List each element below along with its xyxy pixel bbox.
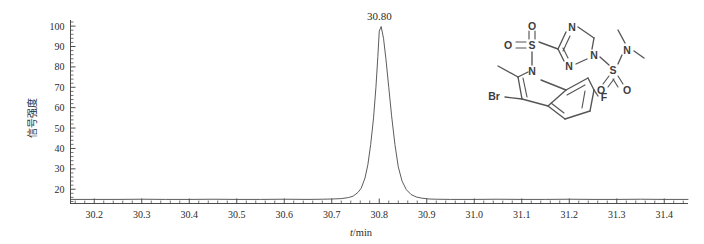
bond-c2-n1 <box>518 72 528 77</box>
bond-c7-c6 <box>588 78 594 90</box>
x-tick-label: 30.7 <box>323 209 341 220</box>
bond-s-triazole-c <box>539 42 558 49</box>
y-tick-label: 70 <box>55 82 65 93</box>
y-tick-label: 40 <box>55 143 65 154</box>
peak-label-3080: 30.80 <box>367 10 392 22</box>
triazole-ring <box>558 27 594 64</box>
bond-c3a-c3 <box>522 99 548 106</box>
bond-c6-c5 <box>590 90 594 111</box>
bond-c2-methyl <box>498 66 518 77</box>
bond-s2-n <box>618 55 622 64</box>
bond-s2-o-right-a <box>618 76 623 84</box>
bond-s2-o-left-a <box>603 76 609 84</box>
atom-label-br: Br <box>488 90 500 102</box>
x-tick-label: 30.9 <box>418 209 436 220</box>
bond-c5-n1 <box>592 38 594 49</box>
y-tick-label: 20 <box>55 184 65 195</box>
y-tick-label: 90 <box>55 41 65 52</box>
atom-label-n: N <box>568 21 576 33</box>
x-tick-label: 31.4 <box>656 209 674 220</box>
atom-label-s: S <box>528 39 535 51</box>
indole-bicycle <box>498 66 598 119</box>
x-tick-label: 30.6 <box>276 209 294 220</box>
bond-n-methyl-right <box>634 51 644 58</box>
chromatogram-figure: 2030405060708090100 30.230.330.430.530.6… <box>0 0 704 244</box>
x-tick-label: 31.2 <box>561 209 579 220</box>
x-axis-title: t/min <box>350 227 373 238</box>
dimethylsulfamoyl-group <box>600 30 644 87</box>
x-axis-tick-labels: 30.230.330.430.530.630.730.830.931.031.1… <box>86 209 674 220</box>
x-axis-title-unit: /min <box>353 227 373 238</box>
atom-label-o: O <box>623 84 631 96</box>
y-tick-label: 80 <box>55 61 65 72</box>
x-tick-label: 31.3 <box>608 209 626 220</box>
y-tick-label: 60 <box>55 102 65 113</box>
atom-label-f: F <box>601 91 608 103</box>
y-axis-ticks <box>71 22 76 201</box>
atom-label-s: S <box>609 64 616 76</box>
bond-c7a-c7-inner <box>567 85 585 95</box>
bond-c3-c2 <box>518 77 522 99</box>
x-tick-label: 30.8 <box>371 209 389 220</box>
y-axis-title: 信号强度 <box>26 98 38 138</box>
structure-atom-labels: BrNSOONNNSOONF <box>488 20 631 103</box>
bond-c3a-c7a <box>548 90 566 106</box>
x-tick-label: 30.5 <box>228 209 246 220</box>
bond-c3-c2-inner <box>523 78 527 97</box>
sulfonyl-linker <box>516 31 558 65</box>
bond-s2-o-right-b <box>613 79 618 87</box>
bond-n2-c3-inner <box>563 48 568 58</box>
bond-c6-c5-inner <box>582 91 585 108</box>
bond-n1-n2 <box>576 59 587 64</box>
bond-c4-c3a-inner <box>551 103 564 113</box>
y-tick-label: 30 <box>55 163 65 174</box>
atom-label-n: N <box>528 65 536 77</box>
bond-n4-c5 <box>578 27 594 38</box>
bond-n-methyl-up <box>618 30 625 43</box>
atom-label-n: N <box>590 49 598 61</box>
x-tick-label: 30.2 <box>86 209 104 220</box>
y-tick-label: 50 <box>55 123 65 134</box>
y-axis-tick-labels: 2030405060708090100 <box>50 21 65 195</box>
x-tick-label: 31.0 <box>466 209 484 220</box>
bond-n1-s2 <box>600 57 609 65</box>
bond-n1-c7a <box>541 80 566 90</box>
atom-label-n: N <box>565 60 573 72</box>
atom-label-n: N <box>623 44 631 56</box>
bond-c3-n4-inner <box>563 36 570 51</box>
bond-c7a-c7 <box>566 78 588 90</box>
atom-label-o: O <box>504 39 512 51</box>
chemical-structure-diagram: BrNSOONNNSOONF <box>470 18 645 133</box>
y-tick-label: 100 <box>50 21 65 32</box>
bond-c3-br <box>505 97 522 99</box>
bond-c5-c4 <box>565 111 590 119</box>
x-tick-label: 31.1 <box>513 209 531 220</box>
x-tick-label: 30.3 <box>133 209 151 220</box>
atom-label-o: O <box>528 20 536 32</box>
x-tick-label: 30.4 <box>181 209 199 220</box>
y-axis-title-text: 信号强度 <box>26 98 38 138</box>
